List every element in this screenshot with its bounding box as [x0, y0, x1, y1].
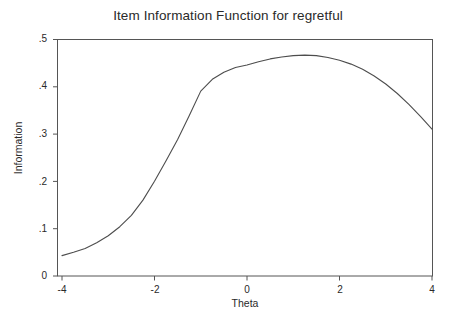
- chart-figure: Item Information Function for regretful …: [0, 0, 456, 323]
- plot-area: [0, 0, 456, 323]
- y-axis-ticks: [53, 40, 58, 277]
- x-axis-ticks: [62, 276, 432, 281]
- axis-frame: [58, 40, 433, 277]
- information-curve: [62, 55, 432, 256]
